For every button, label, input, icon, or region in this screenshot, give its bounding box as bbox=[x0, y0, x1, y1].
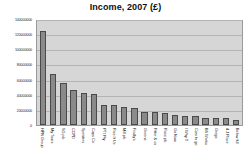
bar[interactable] bbox=[50, 74, 56, 125]
x-tick-label: Fitter & co bbox=[152, 128, 157, 145]
bar[interactable] bbox=[202, 118, 208, 125]
bar[interactable] bbox=[40, 31, 46, 125]
bar-slot bbox=[180, 21, 190, 125]
bar-slot bbox=[79, 21, 89, 125]
y-tick-label: 40000000 bbox=[17, 94, 32, 98]
bar[interactable] bbox=[233, 120, 239, 125]
y-tick-label: 120000000 bbox=[15, 33, 32, 37]
x-tick-label: 4 J Place bbox=[224, 128, 229, 144]
y-tick-label: 60000000 bbox=[17, 79, 32, 83]
x-tick-label: PTI Pty bbox=[101, 128, 106, 140]
income-bar-chart: Income, 2007 (£) 02000000040000000600000… bbox=[0, 0, 251, 160]
x-label-slot: I Why T bbox=[181, 127, 191, 160]
bar[interactable] bbox=[111, 105, 117, 125]
bars-container bbox=[37, 21, 242, 125]
x-label-slot: Below ltd bbox=[232, 127, 242, 160]
x-tick-label: BS Works bbox=[204, 128, 209, 145]
x-label-slot: Sprinters bbox=[78, 127, 88, 160]
x-axis: HPN GroupMy ToursSG plcCCPDSprintersCups… bbox=[36, 127, 243, 160]
bar[interactable] bbox=[141, 112, 147, 125]
chart-title: Income, 2007 (£) bbox=[0, 2, 251, 12]
bar[interactable] bbox=[192, 116, 198, 125]
x-label-slot: Rise It Us bbox=[109, 127, 119, 160]
bar-slot bbox=[190, 21, 200, 125]
x-tick-label: I Why T bbox=[183, 128, 188, 141]
bar[interactable] bbox=[131, 108, 137, 125]
x-label-slot: Go Now bbox=[170, 127, 180, 160]
bar-slot bbox=[89, 21, 99, 125]
x-label-slot: 4 J Place bbox=[222, 127, 232, 160]
x-tick-label: Greens bbox=[142, 128, 147, 140]
x-tick-label: My Tours bbox=[50, 128, 55, 143]
bar-slot bbox=[68, 21, 78, 125]
bar[interactable] bbox=[182, 116, 188, 125]
bar[interactable] bbox=[223, 118, 229, 125]
x-tick-label: CCPD bbox=[70, 128, 75, 139]
x-label-slot: Fitter & co bbox=[150, 127, 160, 160]
bar[interactable] bbox=[70, 90, 76, 125]
x-tick-label: Gregs bbox=[214, 128, 219, 138]
bar-slot bbox=[58, 21, 68, 125]
x-tick-label: SG plc bbox=[60, 128, 65, 139]
x-label-slot: Cups Co bbox=[88, 127, 98, 160]
x-label-slot: Cars to go bbox=[191, 127, 201, 160]
bar[interactable] bbox=[60, 83, 66, 125]
bar-slot bbox=[119, 21, 129, 125]
bar[interactable] bbox=[172, 115, 178, 125]
x-tick-label: Below ltd bbox=[234, 128, 239, 143]
x-tick-label: Ross plc bbox=[163, 128, 168, 143]
y-tick-label: 80000000 bbox=[17, 63, 32, 67]
bar-slot bbox=[140, 21, 150, 125]
x-label-slot: Greens bbox=[140, 127, 150, 160]
x-label-slot: Ross plc bbox=[160, 127, 170, 160]
bar[interactable] bbox=[162, 113, 168, 125]
x-label-slot: My Tours bbox=[47, 127, 57, 160]
x-label-slot: Mill plc bbox=[119, 127, 129, 160]
x-label-slot: Findly's bbox=[129, 127, 139, 160]
bar[interactable] bbox=[213, 118, 219, 125]
bar-slot bbox=[231, 21, 241, 125]
x-label-slot: HPN Group bbox=[37, 127, 47, 160]
x-label-slot: PTI Pty bbox=[99, 127, 109, 160]
x-tick-label: Go Now bbox=[173, 128, 178, 142]
x-tick-label: Cups Co bbox=[91, 128, 96, 143]
y-tick-label: 20000000 bbox=[17, 109, 32, 113]
x-label-slot: Gregs bbox=[211, 127, 221, 160]
x-tick-label: Cars to go bbox=[193, 128, 198, 145]
y-axis: 0200000004000000060000000800000001000000… bbox=[0, 20, 34, 126]
bar[interactable] bbox=[152, 112, 158, 125]
bar-slot bbox=[150, 21, 160, 125]
y-tick-label: 100000000 bbox=[15, 48, 32, 52]
bar-slot bbox=[109, 21, 119, 125]
bar[interactable] bbox=[101, 105, 107, 125]
bar[interactable] bbox=[91, 94, 97, 125]
bar-slot bbox=[38, 21, 48, 125]
bar[interactable] bbox=[81, 93, 87, 125]
bar-slot bbox=[160, 21, 170, 125]
plot-area bbox=[36, 20, 243, 126]
x-tick-label: Sprinters bbox=[81, 128, 86, 143]
y-tick-label: 0 bbox=[30, 124, 32, 128]
x-tick-label: Findly's bbox=[132, 128, 137, 141]
bar-slot bbox=[129, 21, 139, 125]
x-label-slot: SG plc bbox=[58, 127, 68, 160]
bar-slot bbox=[48, 21, 58, 125]
bar-slot bbox=[221, 21, 231, 125]
x-tick-label: Mill plc bbox=[122, 128, 127, 140]
bar-slot bbox=[170, 21, 180, 125]
x-label-slot: BS Works bbox=[201, 127, 211, 160]
bar[interactable] bbox=[121, 107, 127, 125]
x-label-slot: CCPD bbox=[68, 127, 78, 160]
y-tick-label: 140000000 bbox=[15, 18, 32, 22]
x-tick-label: HPN Group bbox=[40, 128, 45, 148]
bar-slot bbox=[99, 21, 109, 125]
x-tick-label: Rise It Us bbox=[111, 128, 116, 144]
bar-slot bbox=[201, 21, 211, 125]
bar-slot bbox=[211, 21, 221, 125]
